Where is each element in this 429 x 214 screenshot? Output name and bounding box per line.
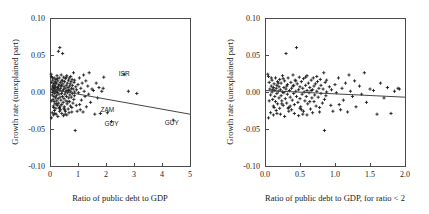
data-point [317, 87, 320, 90]
x-tick-label: 5 [188, 170, 192, 179]
data-point [287, 76, 290, 79]
data-point [84, 79, 87, 82]
data-point [286, 93, 289, 96]
data-point [58, 46, 61, 49]
data-point [79, 87, 82, 90]
data-point [135, 92, 138, 95]
x-tick-label: 3 [132, 170, 136, 179]
data-point [277, 96, 280, 99]
data-point [86, 84, 89, 87]
data-point [315, 75, 318, 78]
data-point [273, 95, 276, 98]
data-point [289, 81, 292, 84]
data-point [269, 111, 272, 114]
data-point [333, 83, 336, 86]
data-point [56, 115, 59, 118]
data-point [274, 100, 277, 103]
data-point [95, 82, 98, 85]
x-tick-label: 1.0 [330, 170, 340, 179]
data-point [305, 95, 308, 98]
data-point [285, 102, 288, 105]
data-point [375, 113, 378, 116]
data-point [267, 116, 270, 119]
data-point [300, 80, 303, 83]
data-point [317, 96, 320, 99]
data-point [73, 94, 76, 97]
y-axis-title: Growth rate (unexplained part) [10, 39, 20, 145]
data-point [276, 102, 279, 105]
data-point [319, 84, 322, 87]
data-point [74, 129, 77, 132]
data-point [310, 96, 313, 99]
data-point [307, 82, 310, 85]
data-point [85, 105, 88, 108]
data-point [72, 98, 75, 101]
data-point [337, 76, 340, 79]
data-point [275, 112, 278, 115]
y-tick-label: -0.10 [243, 162, 260, 171]
data-point [268, 87, 271, 90]
x-axis-title: Ratio of public debt to GDP [72, 193, 168, 203]
data-point [316, 80, 319, 83]
data-point [272, 113, 275, 116]
data-point [79, 108, 82, 111]
data-point [72, 81, 75, 84]
data-point [321, 102, 324, 105]
data-point [298, 85, 301, 88]
data-point [81, 110, 84, 113]
data-point [284, 52, 287, 55]
data-point [330, 88, 333, 91]
data-point [346, 110, 349, 113]
data-point [339, 108, 342, 111]
y-tick-label: 0.00 [31, 88, 45, 97]
data-point [308, 86, 311, 89]
data-point [322, 71, 325, 74]
data-point [290, 108, 293, 111]
data-point [303, 99, 306, 102]
data-point [275, 109, 278, 112]
data-point [291, 99, 294, 102]
data-point [313, 93, 316, 96]
data-point [354, 105, 357, 108]
data-point [127, 90, 130, 93]
y-tick-label: 0.05 [246, 51, 260, 60]
point-annotation-label: GUY [165, 119, 180, 126]
data-point [278, 107, 281, 110]
point-annotation-label: ISR [119, 70, 130, 77]
data-point [78, 103, 81, 106]
x-tick-label: 2 [104, 170, 108, 179]
data-point [291, 73, 294, 76]
data-point [274, 76, 277, 79]
x-tick-label: 1 [76, 170, 80, 179]
data-point [88, 71, 91, 74]
data-point [322, 87, 325, 90]
x-tick-label: 0 [48, 170, 52, 179]
data-point [102, 87, 105, 90]
data-point [76, 83, 79, 86]
y-tick-label: 0.10 [31, 14, 45, 23]
data-point [70, 110, 73, 113]
data-point [349, 90, 352, 93]
point-annotation-label: GUY [105, 120, 120, 127]
data-point [312, 76, 315, 79]
data-point [310, 79, 313, 82]
data-point [319, 78, 322, 81]
data-point [363, 71, 366, 74]
data-point [74, 85, 77, 88]
data-point [100, 90, 103, 93]
data-point [382, 96, 385, 99]
y-tick-label: 0.05 [31, 51, 45, 60]
y-tick-label: -0.05 [243, 125, 260, 134]
data-point [338, 103, 341, 106]
data-point [311, 111, 314, 114]
data-point [304, 84, 307, 87]
data-point [301, 93, 304, 96]
data-point [301, 87, 304, 90]
data-point [308, 100, 311, 103]
data-point [289, 96, 292, 99]
data-point [344, 82, 347, 85]
data-point [393, 90, 396, 93]
data-point [329, 104, 332, 107]
data-point [269, 93, 272, 96]
data-point [55, 74, 58, 77]
